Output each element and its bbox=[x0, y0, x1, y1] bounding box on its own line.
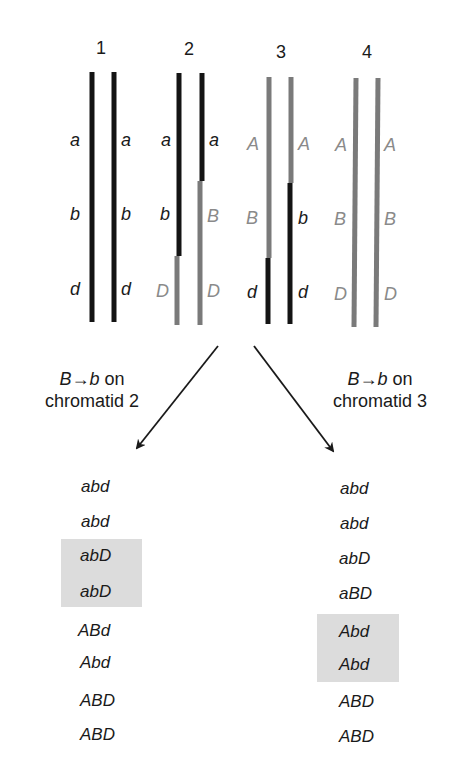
chromatid-pair-1 bbox=[92, 72, 114, 322]
caption-suffix: on bbox=[100, 369, 125, 389]
strand-4-right bbox=[376, 78, 378, 327]
genotype-left-1: abd bbox=[81, 477, 109, 497]
allele-label: B bbox=[334, 209, 346, 229]
allele-label: b bbox=[160, 204, 170, 224]
genotype-left-2: abd bbox=[81, 512, 109, 532]
chromatid-pair-4 bbox=[354, 78, 378, 327]
left-caption-line1: B→b on bbox=[22, 368, 162, 390]
allele-label: D bbox=[334, 284, 347, 304]
allele-label: b bbox=[298, 208, 308, 228]
caption-suffix: on bbox=[388, 369, 413, 389]
gene-to: b bbox=[377, 369, 387, 389]
genotype-right-2: abd bbox=[340, 514, 368, 534]
allele-label: d bbox=[70, 279, 81, 299]
allele-label: D bbox=[156, 281, 169, 301]
right-caption-line2: chromatid 3 bbox=[310, 390, 450, 412]
genotype-left-3: abD bbox=[80, 546, 111, 566]
genotype-left-8: ABD bbox=[80, 725, 115, 745]
chromatid-number-3: 3 bbox=[276, 42, 286, 62]
left-caption-line2: chromatid 2 bbox=[22, 390, 162, 412]
genotype-left-4: abD bbox=[80, 582, 111, 602]
genotype-right-1: abd bbox=[340, 479, 368, 499]
allele-label: A bbox=[334, 135, 347, 155]
allele-label: a bbox=[209, 130, 219, 150]
genotype-right-8: ABD bbox=[339, 727, 374, 747]
chromatid-pair-2 bbox=[177, 73, 202, 325]
allele-label: A bbox=[297, 134, 310, 154]
allele-label: b bbox=[70, 204, 80, 224]
chromatid-number-1: 1 bbox=[96, 38, 106, 58]
chromatid-number-2: 2 bbox=[184, 39, 194, 59]
genotype-left-6: Abd bbox=[80, 653, 110, 673]
allele-label: B bbox=[246, 208, 258, 228]
genotype-left-7: ABD bbox=[80, 691, 115, 711]
genotype-right-3: abD bbox=[339, 549, 370, 569]
allele-label: a bbox=[161, 130, 171, 150]
genotype-left-5: ABd bbox=[78, 621, 110, 641]
genotype-right-4: aBD bbox=[339, 584, 372, 604]
allele-label: D bbox=[207, 281, 220, 301]
allele-label: B bbox=[384, 209, 396, 229]
allele-label: d bbox=[121, 279, 132, 299]
gene-from: B bbox=[59, 369, 71, 389]
chromatid-pair-3 bbox=[268, 77, 291, 324]
chromatid-number-4: 4 bbox=[362, 42, 372, 62]
strand-4-left bbox=[354, 78, 356, 327]
left-branch-caption: B→b on chromatid 2 bbox=[22, 368, 162, 412]
arrow-glyph: → bbox=[359, 369, 377, 389]
gene-from: B bbox=[347, 369, 359, 389]
allele-label: a bbox=[121, 130, 131, 150]
allele-label: A bbox=[246, 134, 259, 154]
allele-label: b bbox=[121, 204, 131, 224]
allele-label: d bbox=[298, 282, 309, 302]
right-branch-caption: B→b on chromatid 3 bbox=[310, 368, 450, 412]
genotype-right-7: ABD bbox=[339, 692, 374, 712]
allele-label: d bbox=[247, 282, 258, 302]
gene-to: b bbox=[89, 369, 99, 389]
allele-label: a bbox=[70, 130, 80, 150]
genotype-right-5: Abd bbox=[339, 622, 369, 642]
right-caption-line1: B→b on bbox=[310, 368, 450, 390]
arrow-glyph: → bbox=[71, 369, 89, 389]
allele-label: D bbox=[384, 284, 397, 304]
allele-label: B bbox=[207, 206, 219, 226]
allele-label: A bbox=[383, 135, 396, 155]
genotype-right-6: Abd bbox=[339, 655, 369, 675]
